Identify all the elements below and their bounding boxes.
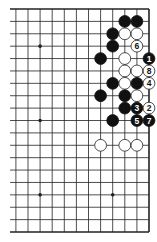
stone-disc: [131, 90, 143, 102]
white-stone: [119, 65, 131, 77]
stone-disc: [131, 15, 143, 27]
black-stone: [119, 102, 131, 114]
white-stone-move-8: 8: [143, 65, 155, 77]
star-point: [38, 193, 42, 197]
star-point: [111, 193, 115, 197]
stone-disc: [95, 90, 107, 102]
stone-disc: [119, 15, 131, 27]
white-stone-move-4: 4: [143, 77, 155, 89]
move-number-label: 4: [147, 78, 152, 88]
stone-disc: [119, 90, 131, 102]
move-number-label: 8: [147, 66, 152, 76]
black-stone: [95, 90, 107, 102]
white-stone-move-2: 2: [143, 102, 155, 114]
stone-disc: [107, 115, 119, 127]
white-stone: [119, 28, 131, 40]
move-number-label: 2: [147, 103, 152, 113]
stone-disc: [107, 77, 119, 89]
star-point: [38, 119, 42, 123]
stone-disc: [107, 40, 119, 52]
move-number-label: 6: [135, 41, 140, 51]
black-stone: [119, 90, 131, 102]
stone-disc: [131, 65, 143, 77]
stone-disc: [95, 139, 107, 151]
white-stone: [119, 53, 131, 65]
black-stone: [95, 53, 107, 65]
stone-disc: [119, 65, 131, 77]
black-stone: [107, 28, 119, 40]
black-stone-move-1: 1: [143, 53, 155, 65]
black-stone-move-5: 5: [131, 115, 143, 127]
white-stone: [131, 90, 143, 102]
stone-disc: [95, 53, 107, 65]
stone-disc: [119, 77, 131, 89]
white-stone: [119, 139, 131, 151]
black-stone-move-7: 7: [143, 115, 155, 127]
move-number-label: 1: [147, 54, 152, 64]
white-stone: [131, 65, 143, 77]
stone-disc: [131, 77, 143, 89]
move-number-label: 3: [135, 103, 140, 113]
white-stone: [95, 139, 107, 151]
stone-disc: [119, 139, 131, 151]
black-stone: [119, 15, 131, 27]
move-number-label: 7: [147, 116, 152, 126]
white-stone: [119, 77, 131, 89]
black-stone-move-3: 3: [131, 102, 143, 114]
white-stone: [131, 139, 143, 151]
go-board: 61843257: [0, 0, 157, 242]
black-stone: [107, 40, 119, 52]
move-number-label: 5: [135, 116, 140, 126]
stone-disc: [131, 139, 143, 151]
star-point: [38, 44, 42, 48]
white-stone: [131, 28, 143, 40]
stone-disc: [119, 28, 131, 40]
stone-disc: [107, 28, 119, 40]
black-stone: [107, 115, 119, 127]
black-stone: [131, 15, 143, 27]
stone-disc: [119, 102, 131, 114]
black-stone: [131, 77, 143, 89]
stone-disc: [119, 53, 131, 65]
stone-disc: [131, 28, 143, 40]
white-stone-move-6: 6: [131, 40, 143, 52]
board-grid: [10, 9, 149, 232]
black-stone: [107, 77, 119, 89]
